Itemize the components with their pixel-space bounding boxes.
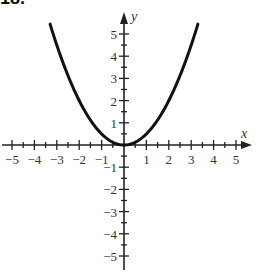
x-axis-label: x [240,126,248,141]
y-tick-label: 3 [111,71,118,86]
y-tick-label: 5 [111,27,118,42]
y-tick-label: −4 [103,227,117,242]
x-tick-label: 5 [233,152,240,167]
x-tick-label: −4 [27,152,41,167]
y-axis-arrow-icon [120,12,128,24]
parabola-chart: xy−5−4−3−2−112345−5−4−3−2−112345 [0,0,256,274]
x-tick-label: −3 [50,152,64,167]
y-axis-label: y [129,9,138,24]
x-tick-label: 4 [210,152,217,167]
x-tick-label: −5 [5,152,19,167]
y-tick-label: 1 [111,116,118,131]
y-tick-label: −3 [103,205,117,220]
x-tick-label: 3 [188,152,195,167]
axes [2,12,252,270]
x-tick-label: 1 [143,152,150,167]
x-tick-label: −2 [72,152,86,167]
tick-labels: xy−5−4−3−2−112345−5−4−3−2−112345 [5,9,248,264]
y-tick-label: −5 [103,249,117,264]
x-tick-label: 2 [166,152,173,167]
y-tick-label: −2 [103,182,117,197]
x-axis-arrow-icon [241,141,252,149]
y-tick-label: 2 [111,94,118,109]
y-tick-label: −1 [103,160,117,175]
y-tick-label: 4 [111,49,118,64]
